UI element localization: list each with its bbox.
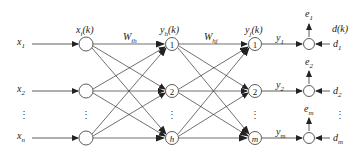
output-y2-label: y2 <box>276 80 284 93</box>
output-node-1-label: 1 <box>253 40 258 50</box>
input-layer-ellipsis: ⋮ <box>81 109 91 120</box>
inputs-ellipsis: ⋮ <box>19 109 29 120</box>
weights-ih-label: Wih <box>123 32 137 45</box>
output-layer-ellipsis: ⋮ <box>250 109 260 120</box>
input-hidden-connections <box>92 44 166 138</box>
input-x2-label: x2 <box>17 84 25 97</box>
input-layer-label: xi(k) <box>76 25 94 38</box>
hidden-layer-ellipsis: ⋮ <box>167 109 177 120</box>
desired-d2-label: d2 <box>333 86 342 99</box>
desired-arrows <box>316 44 330 138</box>
desired-d1-label: d1 <box>333 39 342 52</box>
bp-network-diagram: 1 2 h 1 2 m ⋮ ⋮ ⋮ ⋮ ⋮ <box>0 0 360 154</box>
input-x1-label: x1 <box>17 37 25 50</box>
input-xn-label: xn <box>17 131 25 144</box>
hidden-node-1-label: 1 <box>170 40 175 50</box>
desired-dm-label: dm <box>333 133 343 146</box>
hidden-output-connections <box>178 44 249 138</box>
hidden-layer-label: yh(k) <box>160 25 179 38</box>
input-node-1 <box>79 37 93 51</box>
hidden-node-h-label: h <box>170 134 175 144</box>
desired-dk-label: d(k) <box>332 24 348 34</box>
error-e2-label: e2 <box>305 57 313 70</box>
hidden-node-2-label: 2 <box>170 87 175 97</box>
comparator-node-2 <box>304 86 315 97</box>
ellipses: ⋮ ⋮ ⋮ ⋮ ⋮ <box>19 109 345 120</box>
input-arrows <box>32 44 78 138</box>
input-node-2 <box>79 84 93 98</box>
input-layer <box>79 37 93 145</box>
output-layer-label: yj(k) <box>245 25 263 38</box>
weights-hj-label: Whj <box>204 32 218 45</box>
comparator-node-m <box>304 133 315 144</box>
output-node-2-label: 2 <box>253 87 258 97</box>
desired-ellipsis: ⋮ <box>335 109 345 120</box>
comparator-node-1 <box>304 39 315 50</box>
error-e1-label: e1 <box>305 9 313 22</box>
output-ym-label: ym <box>276 127 286 140</box>
output-y1-label: y1 <box>276 33 284 46</box>
output-node-m-label: m <box>252 134 259 144</box>
input-node-n <box>79 131 93 145</box>
error-em-label: em <box>304 104 314 117</box>
